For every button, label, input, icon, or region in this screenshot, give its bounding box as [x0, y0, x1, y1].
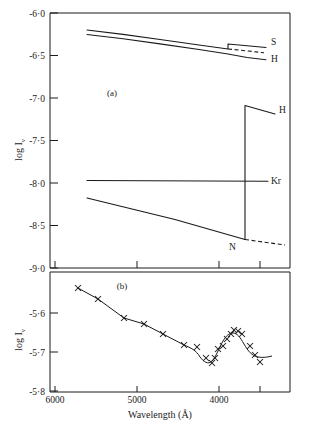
panel-a: -6·0 -6·5 -7·0 -7·5 -8·0 -8·5 -9·0 log I…	[13, 9, 290, 274]
panel-b-xtick-0: 6000	[46, 395, 65, 405]
data-marker	[257, 359, 263, 365]
panel-a-ytick-6: -9·0	[29, 264, 45, 274]
curve-s-extrapolation	[228, 49, 264, 53]
curve-h	[245, 106, 275, 240]
panel-a-ytick-0: -6·0	[29, 9, 45, 19]
panel-b-x-ticks	[55, 386, 260, 392]
curve-n-extrapolation	[245, 240, 285, 246]
data-marker	[203, 355, 209, 361]
data-marker	[235, 328, 241, 334]
data-marker	[194, 344, 200, 350]
panel-b-ytick-2: -5·8	[29, 387, 45, 397]
panel-b-ylabel: log Iν	[13, 329, 27, 351]
panel-a-ytick-4: -8·0	[29, 179, 45, 189]
data-marker	[231, 327, 237, 333]
curve-label-kr: Kr	[271, 176, 282, 186]
curve-h-minus	[87, 35, 266, 60]
panel-b-markers	[75, 285, 263, 366]
panel-b-y-ticks	[50, 313, 58, 391]
curve-kr	[87, 181, 268, 182]
panel-a-ytick-5: -8·5	[29, 221, 45, 231]
panel-b-ytick-0: -5·6	[29, 309, 45, 319]
data-marker	[141, 321, 147, 327]
panel-b-xlabel: Wavelength (Å)	[128, 409, 192, 421]
panel-b-ylabel-group: log Iν	[13, 329, 27, 351]
panel-b-tag: (b)	[117, 281, 128, 291]
panel-a-y-ticks	[50, 13, 58, 268]
curve-label-h-minus: H	[271, 54, 278, 64]
panel-a-ytick-3: -7·5	[29, 136, 45, 146]
data-marker	[181, 342, 187, 348]
data-marker	[95, 296, 101, 302]
panel-a-ylabel: log Iν	[13, 139, 27, 161]
panel-b-ytick-1: -5·7	[29, 348, 45, 358]
figure-svg: -6·0 -6·5 -7·0 -7·5 -8·0 -8·5 -9·0 log I…	[0, 0, 309, 428]
panel-b-xtick-2: 4000	[210, 395, 229, 405]
curve-label-n: N	[229, 242, 236, 252]
data-marker	[247, 343, 253, 349]
panel-a-tag: (a)	[107, 88, 117, 98]
panel-a-ytick-2: -7·0	[29, 94, 45, 104]
panel-b: -5·6 -5·7 -5·8 6000 5000 4000 log Iν Wav…	[13, 272, 290, 421]
data-marker	[239, 331, 245, 337]
curve-label-s: S	[271, 37, 276, 47]
data-marker	[121, 315, 127, 321]
panel-b-xtick-1: 5000	[128, 395, 147, 405]
data-marker	[75, 285, 81, 291]
panel-a-x-ticks	[55, 261, 260, 268]
figure-container: -6·0 -6·5 -7·0 -7·5 -8·0 -8·5 -9·0 log I…	[0, 0, 309, 428]
data-marker	[160, 331, 166, 337]
panel-b-fit-curve	[78, 288, 272, 363]
curve-n	[87, 198, 245, 240]
curve-label-h: H	[279, 105, 286, 115]
panel-a-ytick-1: -6·5	[29, 51, 45, 61]
panel-a-ylabel-group: log Iν	[13, 139, 27, 161]
